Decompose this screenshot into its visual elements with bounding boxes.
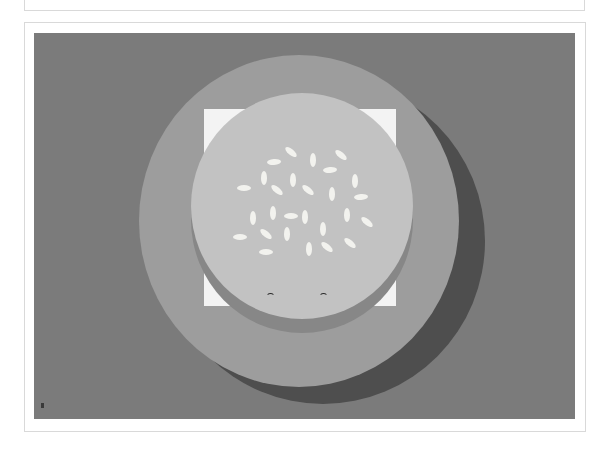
- sesame-seed: [344, 208, 350, 222]
- sesame-seed: [259, 249, 273, 255]
- sesame-seed: [250, 211, 256, 225]
- sesame-seed: [306, 242, 312, 256]
- sesame-seed: [284, 213, 298, 219]
- sesame-seed: [320, 222, 326, 236]
- burger-illustration: [34, 33, 575, 419]
- left-eye-icon: [266, 293, 275, 302]
- sesame-seed: [237, 185, 251, 191]
- sesame-seed: [352, 174, 358, 188]
- bun-top: [191, 93, 413, 319]
- top-card: [24, 0, 585, 11]
- sesame-seed: [310, 153, 316, 167]
- right-eye-icon: [319, 293, 328, 302]
- sesame-seed: [290, 173, 296, 187]
- sesame-seed: [329, 187, 335, 201]
- sesame-seed: [233, 234, 247, 240]
- sesame-seed: [270, 206, 276, 220]
- sesame-seed: [261, 171, 267, 185]
- corner-mark: [41, 403, 44, 408]
- sesame-seed: [302, 210, 308, 224]
- sesame-seed: [284, 227, 290, 241]
